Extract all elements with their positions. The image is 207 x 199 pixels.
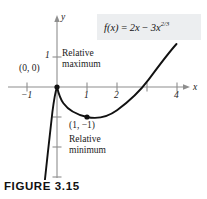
y-axis-label: y	[61, 12, 65, 23]
x-axis-arrowhead	[183, 84, 190, 89]
x-tick-label-1: 1	[84, 90, 89, 101]
x-tick-label-2: 2	[114, 90, 119, 101]
relative-maximum-line-2: maximum	[62, 59, 101, 70]
figure-caption: FIGURE 3.15	[4, 180, 80, 192]
x-axis-label: x	[193, 82, 197, 93]
function-equation: f(x) = 2x − 3x2/3	[104, 20, 169, 33]
equation-minus-sign: −	[142, 22, 148, 33]
origin-point-label: (0, 0)	[19, 63, 40, 74]
y-axis-arrowhead	[54, 15, 59, 22]
equation-fx: f(x)	[104, 22, 119, 33]
equation-exponent: 2/3	[161, 20, 169, 27]
x-tick-label-4: 4	[174, 90, 179, 101]
minimum-point-label: (1, −1)	[69, 120, 95, 131]
relative-minimum-annotation: Relative minimum	[69, 134, 106, 155]
x-tick-label-neg1: −1	[21, 90, 32, 101]
equation-term-one: 2x	[130, 22, 140, 33]
equation-term-two: 3x	[151, 22, 161, 33]
point-relative-maximum	[54, 84, 59, 89]
relative-minimum-line-1: Relative	[69, 134, 106, 145]
relative-maximum-annotation: Relative maximum	[62, 48, 101, 69]
figure-container: y x −1 1 2 4 1 f(x) = 2x − 3x2/3 (0, 0) …	[0, 0, 207, 199]
y-tick-label-1: 1	[45, 50, 50, 61]
curve-left-branch	[44, 87, 57, 180]
relative-minimum-line-2: minimum	[69, 145, 106, 156]
relative-maximum-line-1: Relative	[62, 48, 101, 59]
point-relative-minimum	[84, 114, 89, 119]
equation-equals: =	[121, 22, 127, 33]
